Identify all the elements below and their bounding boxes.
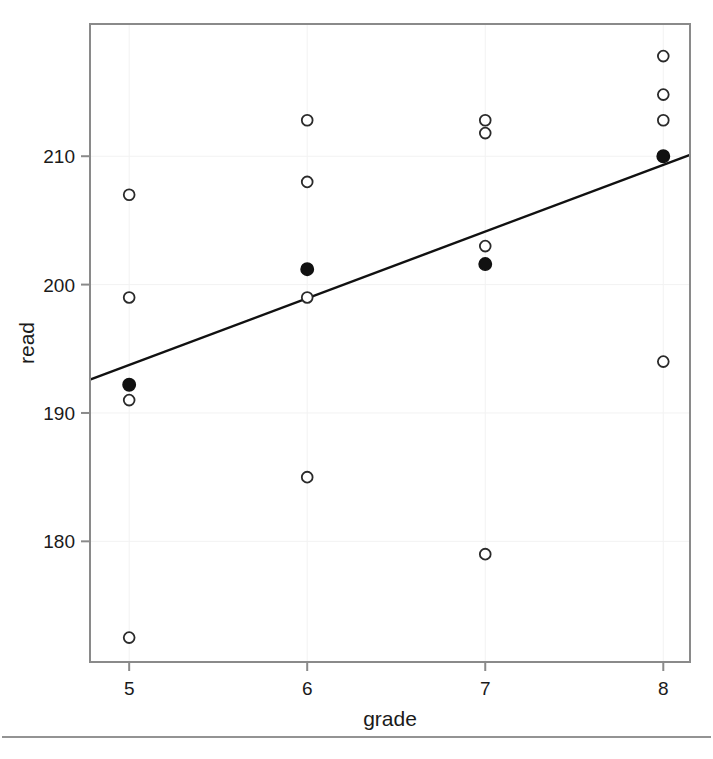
data-point (124, 189, 135, 200)
data-point-mean (301, 263, 313, 275)
data-point (480, 549, 491, 560)
figure-container: 1801902002105678graderead (0, 0, 713, 759)
x-tick-label: 7 (480, 678, 491, 699)
data-point-mean (479, 258, 491, 270)
regression-line (90, 155, 690, 380)
data-point-mean (657, 150, 669, 162)
y-axis-title: read (15, 322, 38, 364)
y-tick-label: 200 (43, 275, 75, 296)
data-point (302, 292, 313, 303)
y-tick-label: 180 (43, 531, 75, 552)
y-tick-label: 190 (43, 403, 75, 424)
y-tick-label: 210 (43, 146, 75, 167)
data-point (124, 395, 135, 406)
x-tick-label: 6 (302, 678, 313, 699)
data-point (302, 115, 313, 126)
data-point (480, 128, 491, 139)
x-tick-label: 8 (658, 678, 669, 699)
data-point (480, 241, 491, 252)
data-point (124, 632, 135, 643)
data-point (302, 176, 313, 187)
plot-frame (90, 24, 690, 662)
data-point-mean (123, 379, 135, 391)
data-point (302, 472, 313, 483)
x-axis-title: grade (363, 707, 417, 730)
data-point (480, 115, 491, 126)
scatter-plot: 1801902002105678graderead (0, 0, 713, 759)
data-point (124, 292, 135, 303)
data-point (658, 115, 669, 126)
data-point (658, 356, 669, 367)
data-point (658, 51, 669, 62)
data-point (658, 89, 669, 100)
x-tick-label: 5 (124, 678, 135, 699)
